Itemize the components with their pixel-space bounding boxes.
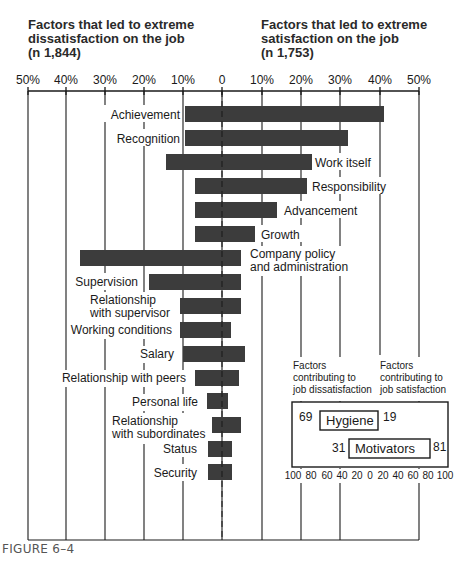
label-company-policy: Company policy bbox=[250, 247, 335, 261]
tick-label: 0 bbox=[219, 73, 226, 87]
axis-tick-labels: 50% 40% 30% 20% 10% 0 10% 20% 30% 40% 50… bbox=[16, 73, 431, 87]
tick-label: 40% bbox=[368, 73, 392, 87]
inset-right-header-1: Factors bbox=[380, 360, 413, 371]
inset-tick: 100 bbox=[437, 470, 454, 481]
bar-advancement bbox=[195, 202, 277, 218]
inset-tick: 80 bbox=[422, 470, 434, 481]
tick-label: 20% bbox=[132, 73, 156, 87]
inset-right-header-2: contributing to bbox=[380, 372, 443, 383]
hygiene-right-value: 19 bbox=[383, 410, 397, 424]
inset-left-header-3: job dissatisfaction bbox=[292, 384, 372, 395]
inset-tick: 60 bbox=[407, 470, 419, 481]
label-relationship-subordinates: Relationship bbox=[112, 414, 178, 428]
tick-label: 20% bbox=[289, 73, 313, 87]
inset-tick: 40 bbox=[392, 470, 404, 481]
tick-label: 50% bbox=[16, 73, 40, 87]
inset-tick: 0 bbox=[367, 470, 373, 481]
tick-label: 30% bbox=[93, 73, 117, 87]
bar-relationship-peers bbox=[195, 370, 239, 386]
bar-growth bbox=[195, 226, 255, 242]
inset-tick: 20 bbox=[377, 470, 389, 481]
bar-company-policy bbox=[80, 250, 241, 266]
tick-label: 10% bbox=[250, 73, 274, 87]
inset-axis-ticks: 100 80 60 40 20 0 20 40 60 80 100 bbox=[285, 470, 454, 481]
chart: 50% 40% 30% 20% 10% 0 10% 20% 30% 40% 50… bbox=[0, 0, 470, 562]
label-salary: Salary bbox=[140, 347, 174, 361]
label-advancement: Advancement bbox=[284, 204, 358, 218]
bar-working-conditions bbox=[180, 322, 231, 338]
bar-status bbox=[208, 441, 232, 457]
bar-relationship-subordinates bbox=[212, 417, 241, 433]
tick-label: 50% bbox=[407, 73, 431, 87]
bar-responsibility bbox=[195, 178, 307, 194]
label-security: Security bbox=[154, 466, 197, 480]
motivators-label: Motivators bbox=[355, 441, 415, 456]
label-supervision: Supervision bbox=[75, 275, 138, 289]
inset-left-header-2: contributing to bbox=[293, 372, 356, 383]
label-relationship-subordinates-2: with subordinates bbox=[111, 427, 205, 441]
bar-achievement bbox=[185, 106, 384, 122]
label-responsibility: Responsibility bbox=[312, 180, 386, 194]
label-relationship-peers: Relationship with peers bbox=[62, 371, 186, 385]
tick-label: 10% bbox=[171, 73, 195, 87]
inset-tick: 20 bbox=[351, 470, 363, 481]
inset-left-header-1: Factors bbox=[293, 360, 326, 371]
label-growth: Growth bbox=[261, 228, 300, 242]
label-working-conditions: Working conditions bbox=[71, 323, 172, 337]
label-status: Status bbox=[163, 442, 197, 456]
bar-recognition bbox=[185, 130, 348, 146]
bar-security bbox=[208, 464, 232, 480]
label-personal-life: Personal life bbox=[132, 395, 198, 409]
tick-label: 40% bbox=[54, 73, 78, 87]
motivators-left-value: 31 bbox=[332, 441, 346, 455]
tick-label: 30% bbox=[328, 73, 352, 87]
bar-supervision bbox=[149, 274, 241, 290]
inset-right-header-3: job satisfaction bbox=[379, 384, 446, 395]
bar-work-itself bbox=[166, 154, 312, 170]
label-relationship-supervisor-2: with supervisor bbox=[89, 306, 170, 320]
inset-tick: 80 bbox=[305, 470, 317, 481]
motivators-right-value: 81 bbox=[433, 440, 447, 454]
hygiene-label: Hygiene bbox=[326, 413, 374, 428]
bar-salary bbox=[183, 346, 245, 362]
figure-caption: FIGURE 6–4 bbox=[2, 542, 75, 556]
inset-tick: 100 bbox=[285, 470, 302, 481]
bar-relationship-supervisor bbox=[180, 298, 241, 314]
label-company-policy-2: and administration bbox=[250, 260, 348, 274]
label-relationship-supervisor: Relationship bbox=[90, 293, 156, 307]
inset-tick: 40 bbox=[336, 470, 348, 481]
hygiene-left-value: 69 bbox=[299, 410, 313, 424]
inset-tick: 60 bbox=[321, 470, 333, 481]
axis bbox=[28, 87, 419, 95]
label-achievement: Achievement bbox=[111, 108, 181, 122]
label-recognition: Recognition bbox=[117, 132, 180, 146]
label-work-itself: Work itself bbox=[315, 156, 371, 170]
bar-personal-life bbox=[207, 393, 228, 409]
